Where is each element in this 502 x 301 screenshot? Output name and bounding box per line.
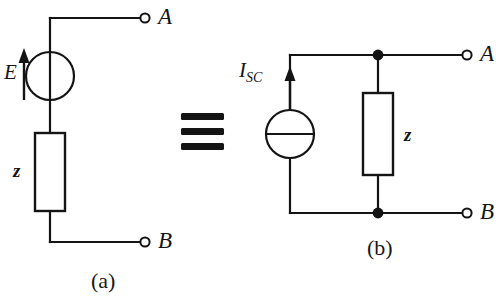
terminal-label-a-bottom: B bbox=[158, 229, 172, 252]
voltage-source-label-a: E bbox=[4, 62, 17, 83]
terminal-circle-b-top bbox=[462, 50, 471, 59]
impedance-label-b: z bbox=[404, 125, 411, 144]
impedance-label-a: z bbox=[13, 161, 20, 180]
caption-b: (b) bbox=[367, 237, 393, 259]
circuit-figure: E z A B (a) ISC z A B (b) bbox=[0, 0, 502, 301]
terminal-circle-b-bottom bbox=[462, 208, 471, 217]
terminal-label-b-bottom: B bbox=[480, 200, 494, 223]
terminal-circle-a-top bbox=[140, 13, 149, 22]
junction-node-top-b bbox=[373, 50, 384, 61]
current-source-label-sub: SC bbox=[246, 70, 262, 85]
terminal-label-a-top: A bbox=[158, 5, 172, 28]
impedance-box-b bbox=[363, 93, 393, 175]
caption-a: (a) bbox=[91, 270, 115, 292]
circuit-diagram-canvas bbox=[0, 0, 502, 301]
equivalence-symbol bbox=[181, 113, 224, 150]
current-source-label-b: ISC bbox=[239, 60, 262, 85]
current-arrow-b bbox=[285, 66, 296, 110]
terminal-circle-a-bottom bbox=[140, 237, 149, 246]
current-source-label-main: I bbox=[239, 58, 246, 82]
impedance-box-a bbox=[35, 133, 65, 211]
junction-node-bottom-b bbox=[373, 208, 384, 219]
terminal-label-b-top: A bbox=[480, 42, 494, 65]
